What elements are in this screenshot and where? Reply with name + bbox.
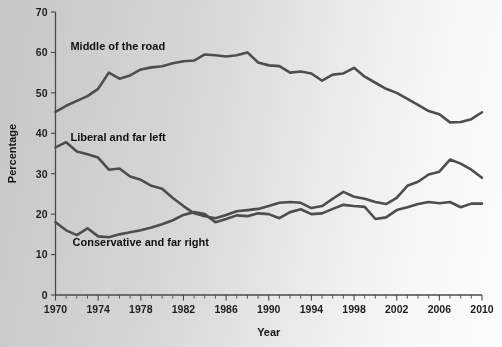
x-tick-label: 1994	[300, 303, 324, 315]
y-tick-label: 40	[36, 127, 48, 139]
y-tick-label: 50	[36, 87, 48, 99]
y-tick-label: 60	[36, 46, 48, 58]
y-tick-label: 70	[36, 6, 48, 18]
x-tick-label: 1986	[214, 303, 238, 315]
x-axis-title: Year	[257, 326, 281, 338]
x-tick-label: 2006	[428, 303, 452, 315]
x-axis: 1970197419781982198619901994199820022006…	[44, 295, 494, 315]
x-tick-label: 2010	[470, 303, 494, 315]
x-tick-label: 1978	[129, 303, 153, 315]
y-tick-label: 10	[36, 248, 48, 260]
series-label-1: Liberal and far left	[70, 131, 166, 143]
y-tick-label: 0	[42, 289, 48, 301]
chart-figure: 010203040506070 197019741978198219861990…	[0, 0, 502, 347]
series-label-2: Conservative and far right	[73, 236, 210, 248]
x-tick-label: 2002	[385, 303, 409, 315]
series-lines	[56, 52, 483, 237]
y-tick-label: 30	[36, 168, 48, 180]
y-axis: 010203040506070	[36, 6, 56, 301]
x-tick-label: 1970	[44, 303, 68, 315]
x-tick-label: 1982	[172, 303, 196, 315]
x-tick-label: 1974	[86, 303, 110, 315]
series-line-0	[56, 52, 483, 122]
series-line-1	[56, 142, 483, 218]
series-labels: Middle of the roadLiberal and far leftCo…	[70, 40, 209, 248]
x-tick-label: 1990	[257, 303, 281, 315]
y-tick-label: 20	[36, 208, 48, 220]
line-chart: 010203040506070 197019741978198219861990…	[0, 0, 502, 347]
series-label-0: Middle of the road	[70, 40, 165, 52]
y-axis-title: Percentage	[6, 124, 18, 183]
x-tick-label: 1998	[342, 303, 366, 315]
